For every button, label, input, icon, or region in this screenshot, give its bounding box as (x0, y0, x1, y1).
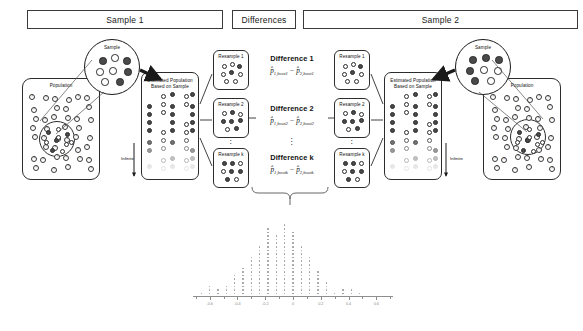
histogram-dot (284, 224, 286, 226)
axis-minor-tick (335, 297, 336, 299)
population-unit-unknown: ? (52, 96, 58, 102)
estimated-population-unit (184, 122, 189, 127)
axis-tick-label: 0.6 (374, 302, 379, 306)
histogram-dot (234, 275, 236, 277)
histogram-dot (242, 282, 244, 284)
population-unit-unknown: ? (31, 107, 37, 113)
population-unit-unknown: ? (513, 96, 519, 102)
estimated-population-unit (427, 166, 432, 171)
histogram-dot (292, 242, 294, 244)
histogram-dot (309, 268, 311, 270)
population-unit-unknown: ? (526, 115, 532, 121)
histogram-dot (342, 293, 344, 295)
population-unit-unknown: ? (512, 167, 518, 173)
dot (359, 169, 364, 174)
histogram-dot (301, 271, 303, 273)
estimated-population-unit (404, 138, 409, 143)
histogram-dot (276, 235, 278, 237)
sample-circle-right: Sample (455, 39, 511, 95)
estimated-population-unit (404, 146, 409, 151)
population-unit-unknown: ? (32, 134, 38, 140)
estimated-population-unit (390, 112, 395, 117)
histogram-dot (317, 289, 319, 291)
histogram-dot (259, 289, 261, 291)
histogram-dot (267, 271, 269, 273)
histogram-dot (359, 293, 361, 295)
estimated-population-unit (433, 120, 438, 125)
histogram-dot (242, 268, 244, 270)
estimated-population-unit (413, 156, 418, 161)
population-unit-unknown: ? (54, 154, 60, 160)
population-unit-unknown: ? (504, 95, 510, 101)
estimated-population-unit (427, 130, 432, 135)
dot (222, 161, 227, 166)
histogram-dot (267, 264, 269, 266)
population-unit-unknown: ? (504, 144, 510, 150)
dot (222, 111, 227, 116)
difference-formula-2-sub2: 2,boot2 (300, 121, 314, 126)
histogram-dot (301, 253, 303, 255)
estimated-population-unit (190, 156, 195, 161)
header-differences-label: Differences (241, 15, 286, 25)
difference-formula-2-minus: − (290, 117, 295, 125)
histogram-dot (309, 289, 311, 291)
histogram-dot (301, 289, 303, 291)
axis-tick (376, 297, 377, 300)
population-unit-unknown: ? (75, 147, 81, 153)
estimated-population-unit (190, 164, 195, 169)
histogram-dot (292, 275, 294, 277)
estimated-population-unit (390, 120, 395, 125)
population-unit-unknown: ? (33, 165, 39, 171)
histogram-dot (284, 264, 286, 266)
histogram-dot (242, 275, 244, 277)
histogram-dot (251, 257, 253, 259)
histogram-dot (342, 289, 344, 291)
axis-tick (210, 297, 211, 300)
header-sample-1-label: Sample 1 (106, 15, 144, 25)
estimated-population-unit (161, 102, 166, 107)
population-unit-unknown: ? (526, 164, 532, 170)
histogram-dot (209, 286, 211, 288)
estimated-population-unit (184, 94, 189, 99)
histogram-dot (284, 235, 286, 237)
estimated-population-unit (404, 94, 409, 99)
population-unit-unknown: ? (63, 106, 69, 112)
axis-minor-tick (196, 297, 197, 299)
population-unit-unknown: ? (73, 134, 79, 140)
estimated-population-unit (170, 92, 175, 97)
population-unit-unknown: ? (527, 97, 533, 103)
estimated-population-unit (147, 164, 152, 169)
population-unit-unknown: ? (63, 155, 69, 161)
histogram-dot (267, 293, 269, 295)
histogram-dot (267, 260, 269, 262)
histogram-dot (267, 232, 269, 234)
estimated-population-unit (404, 158, 409, 163)
histogram-dot (284, 257, 286, 259)
estimated-population-unit (184, 146, 189, 151)
dot (221, 72, 226, 77)
histogram-dot (259, 271, 261, 273)
histogram-dot (309, 257, 311, 259)
histogram-dot (259, 282, 261, 284)
estimated-population-unit (161, 158, 166, 163)
histogram-dot (276, 271, 278, 273)
population-unit-unknown: ? (493, 134, 499, 140)
histogram-dot (301, 282, 303, 284)
histogram-dot (284, 253, 286, 255)
histogram-dot (284, 289, 286, 291)
population-unit-unknown: ? (547, 104, 553, 110)
population-unit-unknown: ? (65, 115, 71, 121)
histogram-dot (209, 293, 211, 295)
estimated-population-unit (184, 158, 189, 163)
difference-ellipsis: ⋮ (238, 137, 346, 146)
estimated-population-unit (161, 94, 166, 99)
difference-title-k: Difference k (238, 153, 346, 162)
estimated-population-unit (413, 140, 418, 145)
histogram-dot (292, 257, 294, 259)
axis-tick-label: -0.6 (206, 302, 213, 306)
histogram-dot (259, 260, 261, 262)
population-unit-unknown: ? (547, 157, 553, 163)
sample-circle-left: Sample (84, 39, 140, 95)
population-unit-unknown: ? (535, 116, 541, 122)
population-unit-unknown: ? (88, 166, 94, 172)
